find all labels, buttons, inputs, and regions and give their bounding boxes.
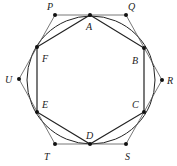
point-u (17, 77, 21, 81)
point-c (142, 110, 146, 114)
point-f (35, 45, 39, 49)
label-b: B (132, 55, 138, 66)
label-e: E (41, 99, 48, 110)
label-f: F (41, 53, 49, 64)
point-b (142, 46, 146, 50)
label-a: A (85, 21, 93, 32)
vertex-labels: ABCDEFPQRSTU (5, 1, 173, 162)
label-p: P (46, 1, 53, 12)
point-r (160, 78, 164, 82)
label-s: S (125, 151, 130, 162)
label-r: R (166, 75, 173, 86)
label-c: C (132, 99, 139, 110)
point-t (53, 142, 57, 146)
label-u: U (5, 74, 13, 85)
vertex-points (17, 13, 164, 146)
label-t: T (44, 151, 51, 162)
point-e (35, 110, 39, 114)
inner-hexagon-abcdef (37, 15, 144, 144)
point-d (88, 142, 92, 146)
point-q (124, 13, 128, 17)
point-p (53, 13, 57, 17)
outer-hexagon-pqrstu (19, 15, 162, 144)
label-d: D (85, 130, 94, 141)
label-q: Q (128, 1, 136, 12)
circumscribed-circle (27, 16, 155, 144)
geometry-diagram: ABCDEFPQRSTU (0, 0, 177, 166)
point-s (124, 142, 128, 146)
point-a (88, 13, 92, 17)
